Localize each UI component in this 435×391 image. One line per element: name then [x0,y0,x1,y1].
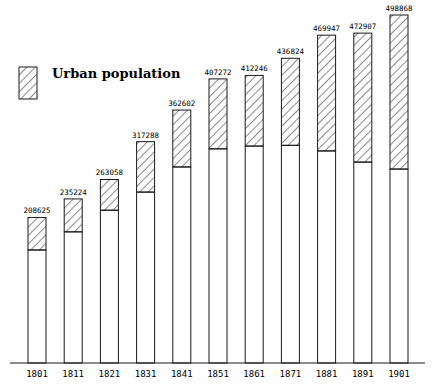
x-tick-label: 1881 [316,369,338,379]
bar-1811: 235224 [60,188,88,363]
x-tick-label: 1901 [388,369,410,379]
legend-hatch-swatch [19,67,37,99]
bar-total-label: 407272 [204,68,231,77]
bar-1901: 498868 [385,4,413,363]
x-tick-label: 1821 [99,369,121,379]
x-tick-label: 1871 [280,369,302,379]
bar-total-label: 498868 [385,4,413,13]
bar-rural-segment [281,145,299,363]
bar-1831: 317288 [132,131,160,363]
bar-total-label: 472907 [349,22,376,31]
bar-1801: 208625 [23,206,50,363]
bars: 2086252352242630583172883626024072724122… [23,4,413,363]
x-tick-label: 1861 [243,369,265,379]
bar-rural-segment [390,169,408,363]
bar-urban-segment [100,179,118,210]
bar-urban-segment [209,79,227,149]
bar-1861: 412246 [241,64,269,363]
x-tick-label: 1891 [352,369,374,379]
bar-urban-segment [390,15,408,169]
bar-total-label: 362602 [168,99,195,108]
bar-1871: 436824 [277,47,305,363]
bar-total-label: 263058 [96,168,124,177]
bar-1851: 407272 [204,68,231,363]
bar-rural-segment [137,192,155,363]
bar-total-label: 317288 [132,131,160,140]
bar-urban-segment [245,75,263,146]
bar-1841: 362602 [168,99,195,363]
bar-urban-segment [28,217,46,250]
bar-urban-segment [64,199,82,232]
bar-rural-segment [173,167,191,363]
bar-rural-segment [64,232,82,363]
bar-total-label: 208625 [23,206,50,215]
stacked-bar-chart: Urban population 20862523522426305831728… [0,0,435,391]
bar-total-label: 469947 [313,24,340,33]
x-tick-label: 1841 [171,369,193,379]
bar-rural-segment [354,162,372,363]
bar-urban-segment [354,33,372,162]
bar-rural-segment [318,151,336,363]
x-tick-label: 1831 [135,369,157,379]
bar-1881: 469947 [313,24,340,363]
bar-urban-segment [281,58,299,145]
bar-total-label: 235224 [60,188,88,197]
bar-1891: 472907 [349,22,376,363]
bar-rural-segment [245,146,263,363]
legend: Urban population [19,66,181,99]
x-axis-labels: 1801181118211831184118511861187118811891… [26,369,410,379]
legend-label: Urban population [52,66,181,81]
bar-urban-segment [318,35,336,151]
bar-rural-segment [100,210,118,363]
bar-urban-segment [137,142,155,192]
x-tick-label: 1811 [62,369,84,379]
bar-rural-segment [28,250,46,363]
bar-urban-segment [173,110,191,167]
x-tick-label: 1801 [26,369,48,379]
bar-total-label: 412246 [241,64,269,73]
bar-total-label: 436824 [277,47,305,56]
bar-rural-segment [209,149,227,363]
x-tick-label: 1851 [207,369,229,379]
bar-1821: 263058 [96,168,124,363]
